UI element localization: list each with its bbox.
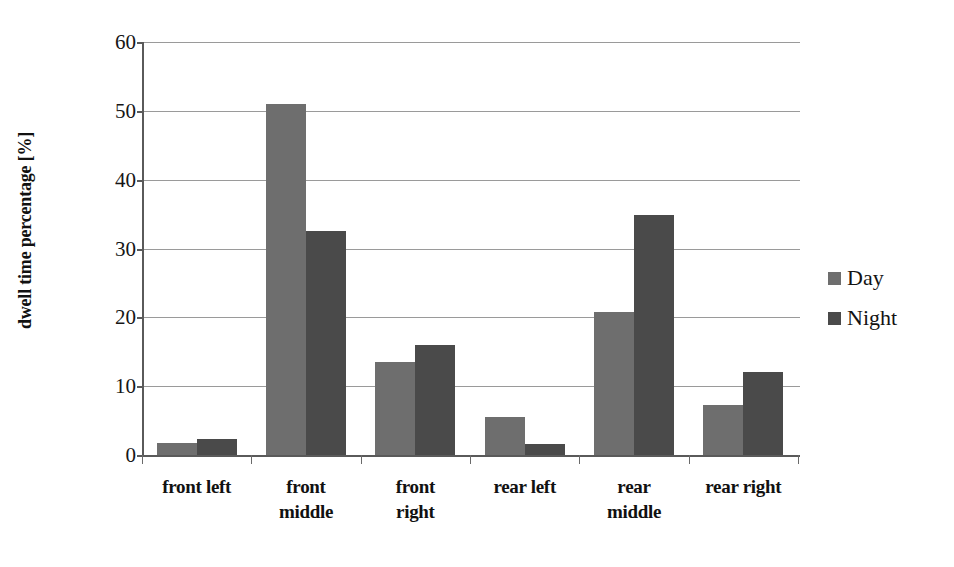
bar-night[interactable] xyxy=(306,231,346,455)
bar-group xyxy=(251,42,360,455)
y-axis-tick-label: 10 xyxy=(90,374,136,399)
x-axis-category-label: rear right xyxy=(689,474,798,524)
x-axis-category-label: rearmiddle xyxy=(579,474,688,524)
legend-label: Day xyxy=(847,265,884,291)
legend-item-night[interactable]: Night xyxy=(828,298,897,338)
y-axis-tick-label: 0 xyxy=(90,443,136,468)
y-axis-tick-label: 50 xyxy=(90,98,136,123)
x-axis-separator xyxy=(579,455,580,464)
bar-day[interactable] xyxy=(703,405,743,455)
bar-day[interactable] xyxy=(485,417,525,455)
y-axis-tick-label: 60 xyxy=(90,30,136,55)
bar-day[interactable] xyxy=(157,443,197,455)
bar-chart-figure: dwell time percentage [%] 6050403020100 … xyxy=(0,0,954,567)
y-axis-tick-labels: 6050403020100 xyxy=(44,0,136,567)
bar-day[interactable] xyxy=(375,362,415,455)
x-axis-separator xyxy=(689,455,690,464)
x-axis-separator xyxy=(798,455,799,464)
legend-item-day[interactable]: Day xyxy=(828,258,897,298)
bar-group xyxy=(361,42,470,455)
bar-group xyxy=(142,42,251,455)
legend-swatch-icon xyxy=(828,312,841,325)
y-axis-title-text: dwell time percentage [%] xyxy=(16,131,37,328)
bar-night[interactable] xyxy=(634,215,674,455)
bar-group xyxy=(470,42,579,455)
x-axis-category-label: frontmiddle xyxy=(251,474,360,524)
x-axis-line xyxy=(142,455,800,457)
x-axis-category-label: rear left xyxy=(470,474,579,524)
y-axis-tick-label: 20 xyxy=(90,305,136,330)
bar-night[interactable] xyxy=(197,439,237,455)
x-axis-separator xyxy=(470,455,471,464)
bar-day[interactable] xyxy=(266,104,306,455)
bar-night[interactable] xyxy=(525,444,565,455)
x-axis-category-label: front left xyxy=(142,474,251,524)
chart-legend: DayNight xyxy=(828,258,897,338)
y-axis-tick-label: 30 xyxy=(90,236,136,261)
legend-label: Night xyxy=(847,305,897,331)
y-axis-title: dwell time percentage [%] xyxy=(6,0,46,460)
bar-night[interactable] xyxy=(415,345,455,455)
bar-night[interactable] xyxy=(743,372,783,455)
x-axis-separator xyxy=(251,455,252,464)
x-axis-category-labels: front leftfrontmiddlefrontrightrear left… xyxy=(142,474,798,524)
legend-swatch-icon xyxy=(828,272,841,285)
bar-group xyxy=(579,42,688,455)
bar-groups xyxy=(142,42,798,455)
bar-day[interactable] xyxy=(594,312,634,455)
y-axis-tick-label: 40 xyxy=(90,167,136,192)
x-axis-category-label: frontright xyxy=(361,474,470,524)
bar-group xyxy=(689,42,798,455)
x-axis-separator xyxy=(142,455,143,464)
x-axis-separator xyxy=(361,455,362,464)
